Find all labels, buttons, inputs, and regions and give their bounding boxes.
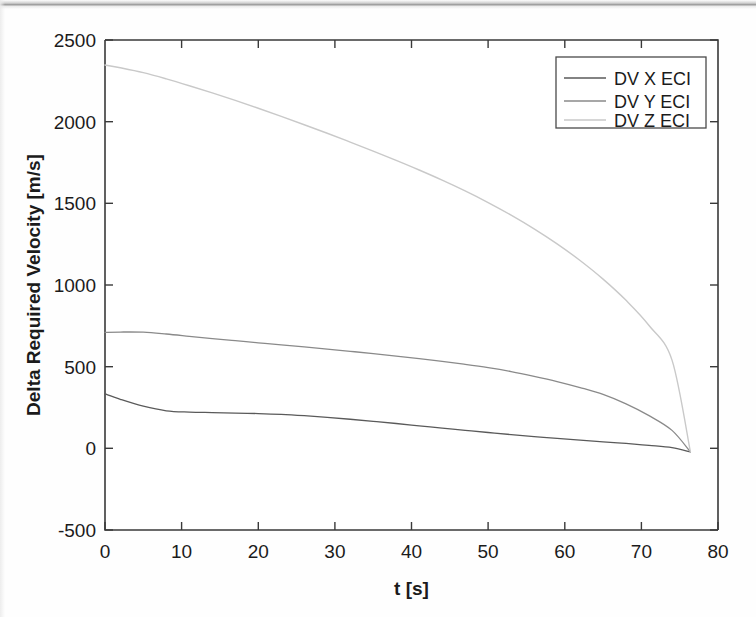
x-tick-label: 60	[554, 541, 575, 562]
y-tick-label: 2500	[54, 30, 96, 51]
x-tick-label: 70	[631, 541, 652, 562]
y-axis-title: Delta Required Velocity [m/s]	[23, 154, 44, 416]
x-axis-tick-labels: 0 10 20 30 40 50 60 70 80	[100, 541, 729, 562]
y-axis-tick-labels: -500 0 500 1000 1500 2000 2500	[54, 30, 96, 541]
figure-container: -500 0 500 1000 1500 2000 2500	[0, 0, 756, 617]
x-axis-title: t [s]	[394, 578, 429, 599]
legend-label-dv-z-eci: DV Z ECI	[614, 111, 690, 131]
legend-label-dv-y-eci: DV Y ECI	[614, 92, 690, 112]
legend-label-dv-x-eci: DV X ECI	[614, 69, 691, 89]
y-tick-label: -500	[58, 520, 96, 541]
x-tick-label: 80	[707, 541, 728, 562]
x-tick-label: 50	[478, 541, 499, 562]
line-chart: -500 0 500 1000 1500 2000 2500	[0, 0, 756, 617]
y-tick-label: 1000	[54, 275, 96, 296]
x-tick-label: 0	[100, 541, 111, 562]
y-tick-label: 1500	[54, 193, 96, 214]
x-tick-label: 20	[248, 541, 269, 562]
x-tick-label: 40	[401, 541, 422, 562]
x-tick-label: 30	[324, 541, 345, 562]
y-tick-label: 2000	[54, 112, 96, 133]
legend[interactable]: DV X ECI DV Y ECI DV Z ECI	[556, 57, 706, 131]
y-tick-label: 500	[64, 357, 96, 378]
x-tick-label: 10	[171, 541, 192, 562]
y-tick-label: 0	[85, 438, 96, 459]
